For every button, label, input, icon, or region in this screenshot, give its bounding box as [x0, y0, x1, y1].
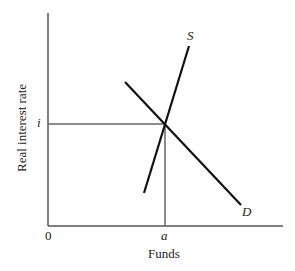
demand-curve — [125, 82, 241, 205]
origin-label: 0 — [45, 228, 52, 244]
rate-label: i — [37, 115, 41, 131]
quantity-label: a — [161, 228, 168, 244]
demand-label: D — [242, 204, 251, 220]
supply-curve — [144, 46, 189, 193]
y-axis-label: Real interest rate — [14, 84, 30, 172]
supply-label: S — [187, 28, 194, 44]
x-axis-label: Funds — [148, 246, 180, 262]
